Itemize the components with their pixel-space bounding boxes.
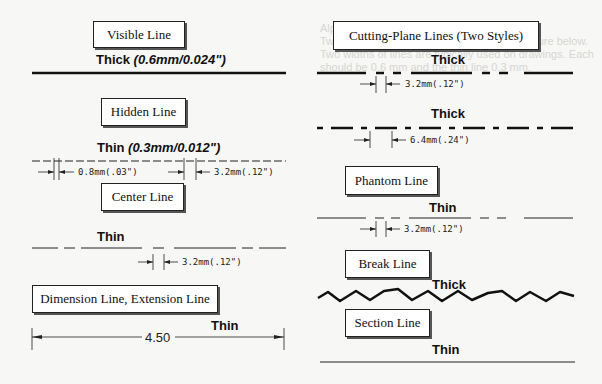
visible-line-title: Visible Line: [93, 21, 185, 48]
cutting-plane-dim1: 3.2mm(.12"): [405, 79, 465, 89]
cutting-plane-weight2: Thick: [431, 106, 465, 121]
visible-line-weight-label: Thick (0.6mm/0.024"): [96, 52, 226, 67]
center-dimension: 3.2mm(.12"): [182, 257, 242, 267]
phantom-line-title-text: Phantom Line: [355, 173, 428, 189]
center-line-title: Center Line: [101, 183, 184, 211]
break-line-title: Break Line: [345, 250, 430, 278]
center-line-weight-label: Thin: [97, 229, 124, 244]
dimension-value: 4.50: [145, 330, 170, 345]
visible-weight: Thick: [96, 52, 130, 67]
hidden-dash-dimension: 3.2mm(.12"): [214, 167, 274, 177]
dimension-line-title: Dimension Line, Extension Line: [32, 285, 218, 313]
hidden-line-title-text: Hidden Line: [111, 104, 176, 120]
phantom-dimension: 3.2mm(.12"): [404, 224, 464, 234]
break-line-title-text: Break Line: [358, 256, 416, 272]
dimension-line-title-text: Dimension Line, Extension Line: [40, 291, 210, 307]
cutting-plane-dim2: 6.4mm(.24"): [410, 135, 470, 145]
visible-line-title-text: Visible Line: [107, 27, 171, 43]
section-line-title: Section Line: [345, 309, 430, 337]
center-line-title-text: Center Line: [112, 189, 174, 205]
visible-spec: (0.6mm/0.024"): [134, 52, 226, 67]
hidden-line-title: Hidden Line: [101, 98, 186, 126]
break-line-weight-label: Thick: [432, 277, 466, 292]
dimension-line-weight-label: Thin: [211, 318, 238, 333]
section-line-title-text: Section Line: [354, 315, 420, 331]
hidden-line-weight-label: Thin (0.3mm/0.012"): [97, 140, 220, 155]
hidden-spec: (0.3mm/0.012"): [128, 140, 220, 155]
hidden-gap-dimension: 0.8mm(.03"): [78, 167, 138, 177]
hidden-weight: Thin: [97, 140, 124, 155]
phantom-line-title: Phantom Line: [345, 166, 438, 195]
section-line-weight-label: Thin: [432, 342, 459, 357]
line-diagram: [0, 0, 602, 384]
cutting-plane-title-text: Cutting-Plane Lines (Two Styles): [349, 28, 523, 44]
cutting-plane-weight1: Thick: [431, 52, 465, 67]
cutting-plane-title: Cutting-Plane Lines (Two Styles): [333, 21, 539, 50]
phantom-line-weight-label: Thin: [429, 200, 456, 215]
